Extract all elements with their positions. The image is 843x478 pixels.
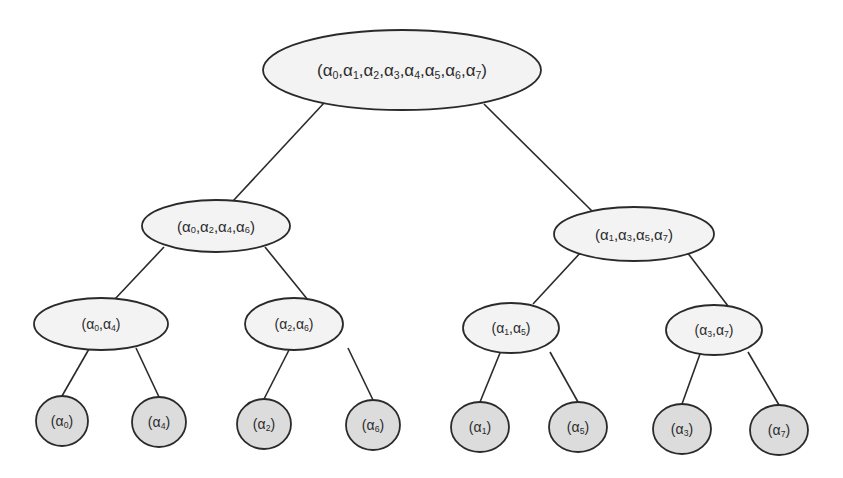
node-label: (α0,α2,α4,α6) [177,218,255,236]
node-label: (α1,α3,α5,α7) [595,226,673,244]
node-label: (α4) [148,414,170,431]
edge-n-37-to-leaf-7 [748,352,779,405]
edge-n-0246-to-n-04 [115,247,164,299]
node-label: (α5) [567,419,589,436]
tree-node-leaf-5: (α5) [549,402,607,452]
tree-node-n-37: (α3,α7) [666,305,762,355]
node-label: (α6) [362,417,384,434]
node-label: (α2) [253,416,275,433]
tree-node-leaf-6: (α6) [346,400,400,450]
tree-nodes: (α0,α1,α2,α3,α4,α5,α6,α7)(α0,α2,α4,α6)(α… [34,30,808,455]
tree-node-leaf-1: (α1) [451,402,509,452]
node-label: (α3) [671,421,693,438]
tree-node-n-26: (α2,α6) [245,298,343,350]
tree-node-n-04: (α0,α4) [34,298,168,350]
edge-n-15-to-leaf-1 [480,353,500,402]
tree-node-leaf-4: (α4) [132,397,186,447]
binary-tree-diagram: (α0,α1,α2,α3,α4,α5,α6,α7)(α0,α2,α4,α6)(α… [0,0,843,478]
tree-node-root: (α0,α1,α2,α3,α4,α5,α6,α7) [263,30,541,110]
node-label: (α0) [51,413,73,430]
tree-node-leaf-3: (α3) [653,404,711,454]
edge-n-37-to-leaf-3 [682,354,700,404]
tree-node-leaf-7: (α7) [750,405,808,455]
tree-node-n-1357: (α1,α3,α5,α7) [554,207,714,261]
edge-root-to-n-0246 [233,103,324,201]
edge-n-04-to-leaf-4 [136,348,159,397]
edge-n-1357-to-n-15 [533,251,582,304]
edge-n-26-to-leaf-2 [264,350,289,399]
tree-node-leaf-0: (α0) [36,396,88,446]
edge-n-26-to-leaf-6 [348,348,373,400]
tree-node-n-15: (α1,α5) [463,303,559,353]
node-label: (α1) [469,419,491,436]
edge-root-to-n-1357 [484,104,592,211]
tree-node-n-0246: (α0,α2,α4,α6) [142,200,290,252]
node-label: (α0,α1,α2,α3,α4,α5,α6,α7) [317,61,487,81]
edge-n-15-to-leaf-5 [550,352,578,402]
edge-n-0246-to-n-26 [265,247,308,300]
edge-n-1357-to-n-37 [687,252,728,306]
tree-node-leaf-2: (α2) [237,399,291,449]
node-label: (α7) [768,422,790,439]
edge-n-04-to-leaf-0 [62,349,89,396]
